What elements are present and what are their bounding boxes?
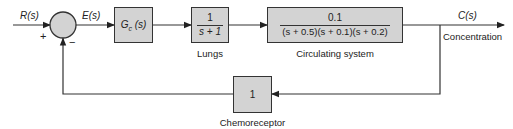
controller-block: Gc (s)	[114, 7, 153, 43]
output-caption: Concentration	[443, 31, 502, 42]
circulating-numerator: 0.1	[326, 13, 344, 25]
lungs-block: 1 s + 1	[191, 7, 229, 43]
feedback-path-left	[63, 39, 233, 95]
minus-sign: −	[69, 37, 75, 48]
output-signal-label: C(s)	[458, 11, 477, 21]
controller-transfer-function: Gc (s)	[121, 19, 147, 32]
circulating-transfer-function: 0.1 (s + 0.5)(s + 0.1)(s + 0.2)	[280, 13, 389, 36]
circulating-system-block: 0.1 (s + 0.5)(s + 0.1)(s + 0.2)	[267, 7, 403, 43]
chemoreceptor-caption: Chemoreceptor	[212, 117, 293, 128]
controller-argument: (s)	[135, 19, 147, 30]
circulating-denominator: (s + 0.5)(s + 0.1)(s + 0.2)	[280, 25, 389, 37]
lungs-transfer-function: 1 s + 1	[197, 13, 223, 37]
error-signal-label: E(s)	[82, 11, 100, 21]
input-signal-label: R(s)	[20, 11, 39, 21]
controller-subscript: c	[128, 25, 132, 32]
plus-sign: +	[40, 31, 46, 42]
lungs-denominator: s + 1	[197, 25, 223, 38]
block-diagram: R(s) E(s) C(s) + − Gc (s) 1 s + 1 Lungs …	[0, 0, 513, 129]
chemoreceptor-block: 1	[233, 76, 272, 113]
chemoreceptor-gain: 1	[250, 89, 256, 100]
lungs-caption: Lungs	[191, 48, 229, 59]
lungs-numerator: 1	[205, 13, 215, 25]
summing-junction	[50, 12, 76, 38]
circulating-system-caption: Circulating system	[267, 48, 403, 59]
